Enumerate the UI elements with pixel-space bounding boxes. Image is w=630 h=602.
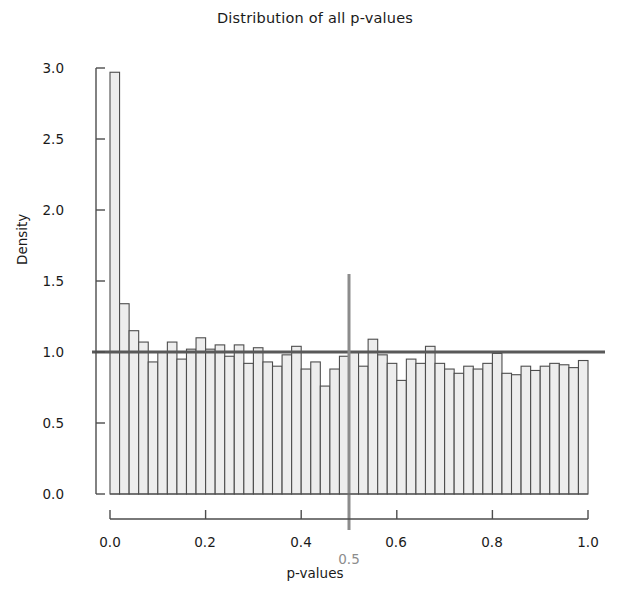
histogram-bar xyxy=(397,380,407,494)
chart-title: Distribution of all p-values xyxy=(0,10,630,26)
histogram-bar xyxy=(234,345,244,494)
histogram-bar xyxy=(177,359,187,494)
histogram-bar xyxy=(368,339,378,494)
histogram-bar xyxy=(292,346,302,494)
histogram-bar xyxy=(206,349,216,494)
histogram-bar xyxy=(454,373,464,494)
y-tick-label-2: 1.0 xyxy=(20,344,64,360)
histogram-bar xyxy=(473,369,483,494)
histogram-bar xyxy=(435,363,445,494)
histogram-bar xyxy=(225,356,235,494)
histogram-bar xyxy=(521,366,531,494)
histogram-bar xyxy=(148,362,158,494)
histogram-bar xyxy=(129,331,139,494)
histogram-bar xyxy=(167,342,177,494)
histogram-bar xyxy=(158,352,168,494)
x-tick-label-4: 0.8 xyxy=(467,534,517,550)
histogram-bar xyxy=(359,366,369,494)
histogram-bar xyxy=(559,365,569,494)
histogram-bar xyxy=(445,369,455,494)
x-tick-label-2: 0.4 xyxy=(276,534,326,550)
histogram-bar xyxy=(320,386,330,494)
vline-label-half: 0.5 xyxy=(324,551,374,567)
histogram-bar xyxy=(186,349,196,494)
histogram-bar xyxy=(540,366,550,494)
histogram-bar xyxy=(569,368,579,494)
histogram-bar xyxy=(502,373,512,494)
histogram-bar xyxy=(464,366,474,494)
histogram-bar xyxy=(378,355,388,494)
histogram-bar xyxy=(139,342,149,494)
histogram-bar xyxy=(492,353,502,494)
plot-area xyxy=(0,0,630,602)
histogram-bar xyxy=(387,363,397,494)
histogram-bar xyxy=(196,338,206,494)
histogram-bar xyxy=(425,346,435,494)
y-tick-label-3: 1.5 xyxy=(20,273,64,289)
histogram-bar xyxy=(273,366,283,494)
histogram-bar xyxy=(263,362,273,494)
y-tick-label-0: 0.0 xyxy=(20,486,64,502)
y-tick-label-6: 3.0 xyxy=(20,60,64,76)
chart-figure: Distribution of all p-values Density p-v… xyxy=(0,0,630,602)
histogram-bar xyxy=(301,369,311,494)
histogram-bar xyxy=(244,363,254,494)
histogram-bar xyxy=(110,72,120,494)
histogram-bar xyxy=(578,361,588,494)
histogram-bar xyxy=(215,345,225,494)
y-tick-label-5: 2.5 xyxy=(20,131,64,147)
histogram-bar xyxy=(406,359,416,494)
histogram-bar xyxy=(531,370,541,494)
histogram-bar xyxy=(416,363,426,494)
x-tick-label-5: 1.0 xyxy=(563,534,613,550)
histogram-bar xyxy=(330,369,340,494)
y-tick-label-1: 0.5 xyxy=(20,415,64,431)
x-axis-label: p-values xyxy=(0,565,630,581)
x-tick-label-3: 0.6 xyxy=(371,534,421,550)
histogram-bar xyxy=(483,363,493,494)
histogram-bar xyxy=(550,363,560,494)
histogram-bar xyxy=(512,375,522,494)
histogram-bar xyxy=(120,304,130,494)
y-tick-label-4: 2.0 xyxy=(20,202,64,218)
histogram-bar xyxy=(253,348,263,494)
x-tick-label-1: 0.2 xyxy=(180,534,230,550)
histogram-bar xyxy=(282,355,292,494)
x-tick-label-0: 0.0 xyxy=(85,534,135,550)
y-axis-label: Density xyxy=(14,214,30,265)
histogram-bar xyxy=(311,362,321,494)
